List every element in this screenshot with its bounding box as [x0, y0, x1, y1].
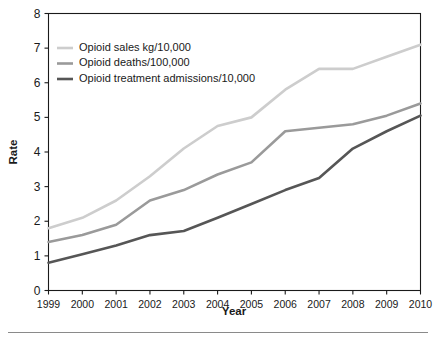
x-tick-label: 2008	[341, 298, 365, 310]
figure-container: 012345678 199920002001200220032004200520…	[0, 0, 436, 342]
legend: Opioid sales kg/10,000Opioid deaths/100,…	[57, 41, 255, 84]
y-axis-title: Rate	[7, 140, 19, 165]
x-tick-label: 2003	[172, 298, 196, 310]
x-tick-label: 2002	[138, 298, 162, 310]
footer-divider	[8, 332, 428, 333]
x-tick-label: 2001	[104, 298, 128, 310]
y-tick-label: 1	[34, 249, 41, 263]
y-axis: 012345678	[34, 7, 49, 298]
x-tick-label: 2000	[71, 298, 95, 310]
x-axis-title: Year	[222, 305, 247, 317]
y-tick-label: 6	[34, 76, 41, 90]
line-chart: 012345678 199920002001200220032004200520…	[0, 0, 436, 318]
legend-label-1: Opioid sales kg/10,000	[79, 41, 191, 53]
x-tick-label: 2006	[274, 298, 298, 310]
y-tick-label: 2	[34, 214, 41, 228]
x-tick-label: 1999	[37, 298, 61, 310]
y-tick-label: 5	[34, 110, 41, 124]
y-tick-label: 4	[34, 145, 41, 159]
y-tick-label: 7	[34, 41, 41, 55]
series-line-3	[49, 116, 421, 263]
chart-canvas: 012345678 199920002001200220032004200520…	[0, 0, 436, 318]
legend-label-2: Opioid deaths/100,000	[79, 56, 190, 68]
legend-label-3: Opioid treatment admissions/10,000	[79, 72, 255, 84]
y-tick-label: 3	[34, 180, 41, 194]
x-tick-label: 2009	[375, 298, 399, 310]
series-line-2	[49, 104, 421, 243]
x-tick-label: 2007	[307, 298, 331, 310]
y-tick-label: 0	[34, 284, 41, 298]
x-tick-label: 2010	[409, 298, 433, 310]
y-tick-label: 8	[34, 7, 41, 21]
